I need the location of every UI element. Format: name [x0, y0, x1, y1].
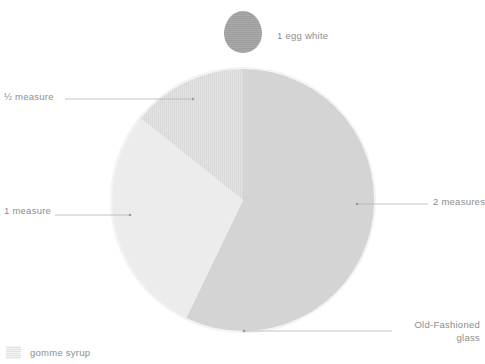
leader-dot-one-measure [129, 214, 132, 217]
callout-old-fashioned-glass: Old-Fashioned glass [395, 319, 480, 344]
egg-white-shape[interactable] [224, 11, 262, 53]
callout-one-measure: 1 measure [4, 205, 51, 218]
leader-dot-two-measures [356, 203, 359, 206]
leader-dot-half-measure [192, 98, 195, 101]
legend-swatch-gomme-syrup [6, 346, 21, 359]
legend: gomme syrup [6, 346, 90, 359]
callout-two-measures: 2 measures [433, 196, 485, 209]
callout-half-measure: ½ measure [4, 91, 54, 104]
leader-dot-glass [243, 330, 246, 333]
legend-label-gomme-syrup: gomme syrup [30, 347, 90, 358]
callout-glass-line1: Old-Fashioned [414, 319, 480, 330]
callout-egg-white: 1 egg white [277, 30, 328, 43]
callout-glass-line2: glass [457, 332, 480, 343]
